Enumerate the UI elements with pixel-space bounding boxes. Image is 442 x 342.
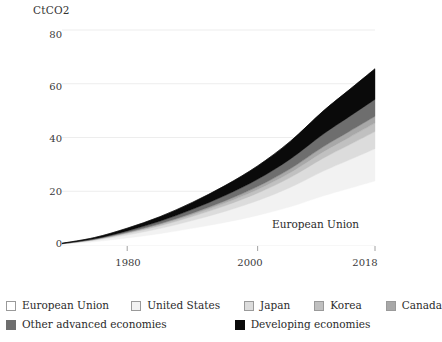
legend-swatch-icon bbox=[131, 301, 141, 311]
legend-item-canada[interactable]: Canada bbox=[386, 300, 442, 311]
y-tick-label-40: 40 bbox=[36, 133, 62, 144]
legend-swatch-icon bbox=[386, 301, 396, 311]
legend-label: Canada bbox=[402, 300, 442, 311]
y-tick-label-80: 80 bbox=[36, 29, 62, 40]
y-tick-label-20: 20 bbox=[36, 186, 62, 197]
legend-label: European Union bbox=[22, 300, 109, 311]
x-tick-marks bbox=[127, 246, 375, 251]
legend-row-primary: European UnionUnited StatesJapanKoreaCan… bbox=[0, 296, 412, 315]
legend-item-european-union[interactable]: European Union bbox=[6, 300, 109, 311]
legend-label: Other advanced economies bbox=[22, 319, 167, 330]
legend-swatch-icon bbox=[244, 301, 254, 311]
stacked-area-svg bbox=[0, 0, 412, 300]
y-tick-label-0: 0 bbox=[36, 238, 62, 249]
y-tick-label-60: 60 bbox=[36, 81, 62, 92]
legend-item-japan[interactable]: Japan bbox=[244, 300, 290, 311]
x-tick-label-1980: 1980 bbox=[108, 257, 148, 268]
annotation-european-union: European Union bbox=[272, 218, 359, 230]
legend-item-united-states[interactable]: United States bbox=[131, 300, 220, 311]
legend-label: United States bbox=[147, 300, 220, 311]
legend: European UnionUnited StatesJapanKoreaCan… bbox=[0, 296, 412, 342]
legend-item-korea[interactable]: Korea bbox=[314, 300, 361, 311]
legend-swatch-icon bbox=[6, 301, 16, 311]
x-tick-label-2018: 2018 bbox=[345, 257, 385, 268]
legend-swatch-icon bbox=[314, 301, 324, 311]
legend-swatch-icon bbox=[235, 320, 245, 330]
plot-area bbox=[0, 0, 412, 300]
legend-swatch-icon bbox=[6, 320, 16, 330]
legend-item-other-advanced-economies[interactable]: Other advanced economies bbox=[6, 319, 167, 330]
legend-label: Developing economies bbox=[251, 319, 371, 330]
legend-label: Korea bbox=[330, 300, 361, 311]
legend-label: Japan bbox=[260, 300, 290, 311]
legend-row-secondary: Other advanced economiesDeveloping econo… bbox=[0, 315, 412, 334]
x-tick-label-2000: 2000 bbox=[230, 257, 270, 268]
legend-item-developing-economies[interactable]: Developing economies bbox=[235, 319, 371, 330]
